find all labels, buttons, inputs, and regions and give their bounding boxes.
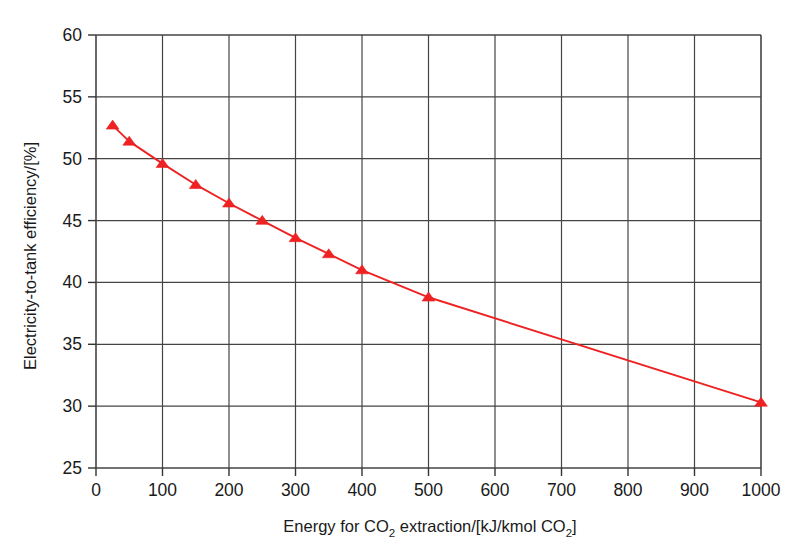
data-series <box>106 120 767 406</box>
x-axis-tick-label: 400 <box>347 480 376 500</box>
y-axis-tick-label: 50 <box>63 149 83 169</box>
axis-title-segment: extraction/[kJ/kmol CO <box>395 517 566 535</box>
data-point-marker <box>256 215 269 224</box>
data-point-marker <box>106 120 119 129</box>
data-point-marker <box>289 233 302 242</box>
series-line <box>113 125 761 402</box>
x-axis-title: Energy for CO2 extraction/[kJ/kmol CO2] <box>283 517 576 539</box>
data-point-marker <box>223 198 236 207</box>
line-chart: 01002003004005006007008009001000 2530354… <box>0 0 808 556</box>
x-axis-tick-labels: 01002003004005006007008009001000 <box>91 480 781 500</box>
x-axis-tick-label: 700 <box>547 480 576 500</box>
y-axis-title: Electricity-to-tank efficiency/[%] <box>21 142 39 370</box>
axis-title-segment: ] <box>572 517 577 535</box>
x-axis-tick-label: 600 <box>480 480 509 500</box>
chart-figure: 01002003004005006007008009001000 2530354… <box>0 0 808 556</box>
data-point-marker <box>422 292 435 301</box>
y-axis-tick-labels: 2530354045505560 <box>63 25 83 478</box>
x-axis-tick-label: 900 <box>680 480 709 500</box>
x-axis-tick-label: 800 <box>613 480 642 500</box>
y-axis-tick-label: 45 <box>63 211 82 231</box>
data-point-marker <box>356 265 369 274</box>
y-axis-tick-label: 25 <box>63 458 82 478</box>
x-axis-tick-label: 1000 <box>742 480 781 500</box>
y-axis-tick-label: 30 <box>63 396 83 416</box>
data-point-marker <box>322 249 335 258</box>
x-axis-tick-label: 300 <box>281 480 310 500</box>
y-axis-tick-label: 55 <box>63 87 82 107</box>
y-axis-tick-label: 35 <box>63 334 82 354</box>
y-axis-tick-label: 40 <box>63 272 83 292</box>
x-axis-tick-label: 200 <box>214 480 243 500</box>
grid-lines <box>96 35 761 468</box>
y-axis-tick-label: 60 <box>63 25 83 45</box>
axis-title-segment: Energy for CO <box>283 517 389 535</box>
x-axis-tick-label: 100 <box>148 480 177 500</box>
x-axis-tick-label: 500 <box>414 480 443 500</box>
axis-ticks <box>88 35 761 476</box>
x-axis-tick-label: 0 <box>91 480 101 500</box>
